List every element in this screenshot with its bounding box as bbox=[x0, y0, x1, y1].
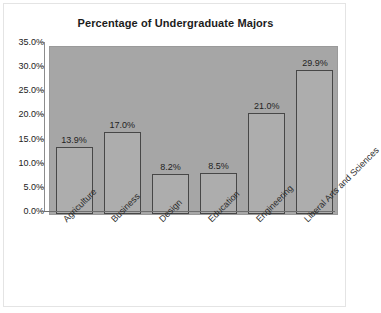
y-axis-tick-label: 35.0% bbox=[3, 37, 44, 47]
bar-value-label: 13.9% bbox=[44, 135, 104, 145]
y-axis-tick-label: 10.0% bbox=[3, 158, 44, 168]
x-axis-line bbox=[44, 211, 335, 212]
chart-title: Percentage of Undergraduate Majors bbox=[4, 17, 347, 29]
y-axis-tick-label: 5.0% bbox=[3, 182, 44, 192]
bar-group: 8.5% bbox=[200, 45, 237, 214]
bar-value-label: 29.9% bbox=[285, 58, 345, 68]
y-axis-tick-label: 0.0% bbox=[3, 206, 44, 216]
y-axis-tick-label: 15.0% bbox=[3, 134, 44, 144]
y-axis-line bbox=[44, 42, 45, 212]
chart-frame: Percentage of Undergraduate Majors 13.9%… bbox=[3, 3, 346, 307]
y-axis: 0.0%5.0%10.0%15.0%20.0%25.0%30.0%35.0% bbox=[0, 0, 44, 313]
bar-group: 29.9% bbox=[296, 45, 333, 214]
bar-value-label: 21.0% bbox=[237, 101, 297, 111]
bar-value-label: 8.5% bbox=[189, 161, 249, 171]
y-axis-tick-label: 30.0% bbox=[3, 61, 44, 71]
bar-group: 8.2% bbox=[152, 45, 189, 214]
y-axis-tick-label: 20.0% bbox=[3, 109, 44, 119]
bar-group: 21.0% bbox=[248, 45, 285, 214]
y-axis-tick-label: 25.0% bbox=[3, 85, 44, 95]
bar-value-label: 17.0% bbox=[92, 120, 152, 130]
bar-group: 13.9% bbox=[56, 45, 93, 214]
bar-group: 17.0% bbox=[104, 45, 141, 214]
